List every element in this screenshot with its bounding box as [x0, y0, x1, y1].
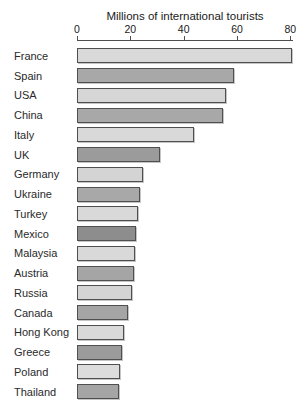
- category-label: Spain: [0, 70, 77, 82]
- bar-row: Russia: [0, 283, 293, 303]
- bar-track: [77, 48, 293, 63]
- bar-austria: [77, 266, 134, 281]
- bar-track: [77, 285, 293, 300]
- x-tick-label: 80: [284, 23, 296, 35]
- bar-spain: [77, 68, 234, 83]
- bar-row: France: [0, 46, 293, 66]
- bar-russia: [77, 285, 132, 300]
- category-label: Mexico: [0, 228, 77, 240]
- bar-track: [77, 127, 293, 142]
- bar-track: [77, 226, 293, 241]
- bar-track: [77, 384, 293, 399]
- bar-uk: [77, 147, 160, 162]
- x-tick-mark: [237, 36, 238, 40]
- bar-poland: [77, 364, 120, 379]
- bar-track: [77, 88, 293, 103]
- tourists-bar-chart: Millions of international tourists 02040…: [0, 0, 305, 409]
- bar-germany: [77, 167, 143, 182]
- category-label: Canada: [0, 307, 77, 319]
- category-label: Poland: [0, 366, 77, 378]
- bar-track: [77, 68, 293, 83]
- bar-row: Turkey: [0, 204, 293, 224]
- bar-track: [77, 345, 293, 360]
- x-tick-label: 40: [178, 23, 190, 35]
- x-tick-mark: [290, 36, 291, 40]
- bar-row: Thailand: [0, 382, 293, 402]
- bar-track: [77, 206, 293, 221]
- category-label: Hong Kong: [0, 326, 77, 338]
- category-label: Malaysia: [0, 247, 77, 259]
- category-label: Greece: [0, 346, 77, 358]
- category-label: Turkey: [0, 208, 77, 220]
- category-label: Austria: [0, 267, 77, 279]
- category-label: Ukraine: [0, 188, 77, 200]
- bar-track: [77, 108, 293, 123]
- bar-track: [77, 147, 293, 162]
- bar-track: [77, 325, 293, 340]
- category-label: Russia: [0, 287, 77, 299]
- bar-row: Greece: [0, 342, 293, 362]
- bar-canada: [77, 305, 128, 320]
- category-label: UK: [0, 149, 77, 161]
- bar-row: Hong Kong: [0, 323, 293, 343]
- bar-row: Poland: [0, 362, 293, 382]
- bar-ukraine: [77, 187, 140, 202]
- chart-title: Millions of international tourists: [77, 10, 293, 22]
- x-tick-mark: [130, 36, 131, 40]
- x-tick-mark: [184, 36, 185, 40]
- bar-greece: [77, 345, 122, 360]
- bar-track: [77, 266, 293, 281]
- bar-france: [77, 48, 292, 63]
- bar-turkey: [77, 206, 138, 221]
- bar-hong-kong: [77, 325, 124, 340]
- bar-row: USA: [0, 86, 293, 106]
- category-label: Italy: [0, 129, 77, 141]
- bar-row: Canada: [0, 303, 293, 323]
- bar-row: Austria: [0, 263, 293, 283]
- bar-italy: [77, 127, 194, 142]
- bar-track: [77, 364, 293, 379]
- bar-row: China: [0, 105, 293, 125]
- bar-row: UK: [0, 145, 293, 165]
- bar-row: Ukraine: [0, 184, 293, 204]
- bar-mexico: [77, 226, 136, 241]
- bar-row: Italy: [0, 125, 293, 145]
- bar-malaysia: [77, 246, 135, 261]
- x-tick-label: 0: [74, 23, 80, 35]
- category-label: France: [0, 50, 77, 62]
- bar-rows: FranceSpainUSAChinaItalyUKGermanyUkraine…: [0, 46, 293, 402]
- x-tick-label: 60: [231, 23, 243, 35]
- bar-row: Malaysia: [0, 244, 293, 264]
- bar-thailand: [77, 384, 119, 399]
- bar-row: Germany: [0, 165, 293, 185]
- bar-row: Spain: [0, 66, 293, 86]
- category-label: Germany: [0, 168, 77, 180]
- x-tick-label: 20: [124, 23, 136, 35]
- x-tick-mark: [77, 36, 78, 40]
- x-axis: 020406080: [77, 24, 293, 41]
- bar-track: [77, 305, 293, 320]
- bar-row: Mexico: [0, 224, 293, 244]
- bar-china: [77, 108, 223, 123]
- category-label: USA: [0, 89, 77, 101]
- category-label: Thailand: [0, 386, 77, 398]
- category-label: China: [0, 109, 77, 121]
- bar-track: [77, 187, 293, 202]
- bar-usa: [77, 88, 226, 103]
- bar-track: [77, 246, 293, 261]
- bar-track: [77, 167, 293, 182]
